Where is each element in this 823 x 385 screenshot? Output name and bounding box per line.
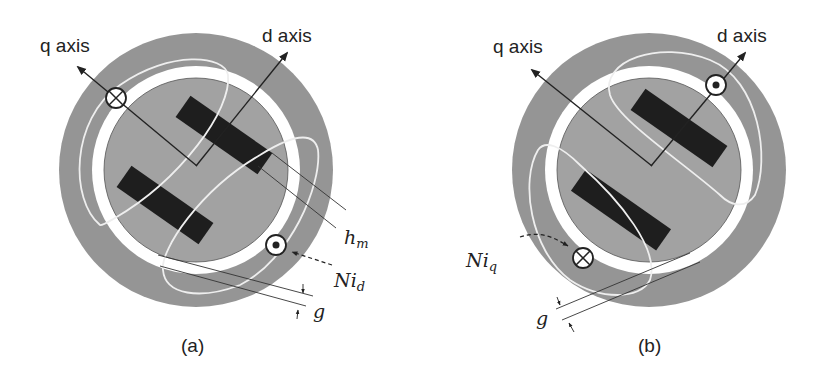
g-arrow-top-b [557, 297, 560, 305]
g-label-b: g [536, 307, 548, 329]
q-axis-label-a: q axis [40, 35, 90, 56]
caption-a: (a) [181, 335, 204, 356]
hm-label: hm [344, 226, 369, 251]
niq-label: Niq [465, 249, 497, 274]
motor-diagram: q axis d axis hm Nid g (a) [0, 0, 823, 385]
dot-conductor-icon [266, 235, 286, 255]
cross-conductor-icon [106, 88, 126, 108]
g-arrow-bottom-b [569, 323, 574, 332]
q-axis-label-b: q axis [493, 36, 543, 57]
nid-label: Nid [333, 269, 365, 294]
caption-b: (b) [638, 335, 661, 356]
d-axis-label-b: d axis [717, 25, 767, 46]
g-label-a: g [313, 300, 325, 322]
panel-a: q axis d axis hm Nid g (a) [40, 25, 369, 356]
dot-conductor-icon [706, 75, 726, 95]
d-axis-label-a: d axis [262, 25, 312, 46]
panel-b: q axis d axis Niq g (b) [465, 25, 786, 356]
g-arrow-bottom-a [297, 310, 298, 319]
cross-conductor-icon [573, 248, 593, 268]
